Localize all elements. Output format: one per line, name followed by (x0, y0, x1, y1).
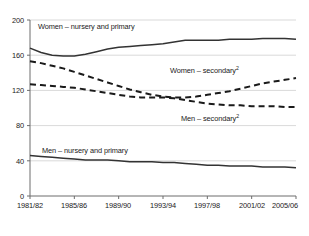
series-line-women-secondary (30, 61, 296, 97)
series-label-men-secondary: Men – secondary2 (181, 114, 239, 123)
x-tick-label-1989-90: 1989/90 (96, 201, 140, 210)
axis-lines (30, 20, 296, 196)
x-tick-label-1981-82: 1981/82 (8, 201, 52, 210)
series-line-men-secondary (30, 84, 296, 107)
series-label-text: Men – secondary (181, 114, 236, 123)
y-tick-label-40: 40 (2, 157, 24, 166)
y-tick-label-120: 120 (2, 86, 24, 95)
series-label-men-nursery-primary: Men – nursery and primary (42, 146, 128, 155)
x-tick-label-1985-86: 1985/86 (52, 201, 96, 210)
footnote-marker: 2 (236, 113, 239, 119)
gridlines (30, 20, 296, 161)
series-label-women-secondary: Women – secondary2 (170, 66, 239, 75)
series-label-text: Men – nursery and primary (42, 146, 128, 155)
y-tick-label-0: 0 (2, 192, 24, 201)
x-tick-label-1997-98: 1997/98 (185, 201, 229, 210)
x-tick-label-2005-06: 2005/06 (263, 201, 307, 210)
series-line-women-nursery-and-primary (30, 38, 296, 56)
series-label-text: Women – nursery and primary (38, 22, 135, 31)
series-line-men-nursery-and-primary (30, 156, 296, 168)
y-tick-label-160: 160 (2, 51, 24, 60)
y-tick-label-80: 80 (2, 121, 24, 130)
x-tick-label-1993-94: 1993/94 (141, 201, 185, 210)
line-chart: 200 160 120 80 40 0 1981/82 1985/86 1989… (0, 0, 309, 236)
y-tick-label-200: 200 (2, 16, 24, 25)
footnote-marker: 2 (236, 65, 239, 71)
series-label-women-nursery-primary: Women – nursery and primary (38, 22, 135, 31)
series-label-text: Women – secondary (170, 66, 236, 75)
